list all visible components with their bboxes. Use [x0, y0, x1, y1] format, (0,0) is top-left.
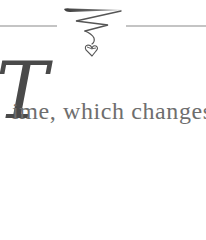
opening-line: ime, which changes [12, 97, 206, 125]
